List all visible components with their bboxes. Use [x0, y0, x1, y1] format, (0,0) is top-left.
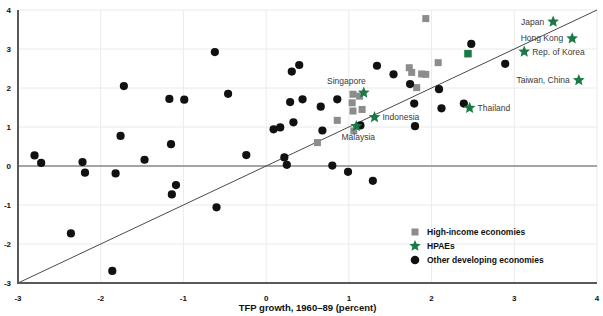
- data-point: [212, 203, 220, 211]
- data-point: [435, 85, 443, 93]
- y-tick-label: 1: [7, 123, 12, 132]
- data-point: [389, 70, 397, 78]
- point-label-japan: Japan: [521, 17, 544, 27]
- data-point: [435, 59, 442, 66]
- data-point: [317, 103, 325, 111]
- identity-reference-line: [18, 10, 597, 283]
- data-point: [467, 40, 475, 48]
- data-point: [413, 84, 420, 91]
- data-point: [333, 95, 341, 103]
- data-point: [411, 122, 419, 130]
- data-point: [67, 229, 75, 237]
- data-point: [318, 126, 326, 134]
- data-point: [373, 62, 381, 70]
- data-point: [112, 169, 120, 177]
- data-point: [344, 168, 352, 176]
- data-point: [288, 68, 296, 76]
- point-label-rep-of-korea: Rep. of Korea: [532, 47, 585, 57]
- y-tick-label: 4: [7, 6, 12, 15]
- data-point: [406, 80, 414, 88]
- data-point-hpae-square: [464, 50, 472, 58]
- data-point: [298, 95, 306, 103]
- data-point: [242, 151, 250, 159]
- legend-marker-circle: [411, 256, 420, 265]
- data-point: [286, 98, 294, 106]
- data-point: [30, 151, 38, 159]
- point-label-hong-kong: Hong Kong: [521, 33, 564, 43]
- point-label-singapore: Singapore: [327, 76, 366, 86]
- data-point: [410, 100, 418, 108]
- x-tick-label: -1: [180, 294, 188, 303]
- data-point: [168, 190, 176, 198]
- legend-label-2: Other developing economies: [427, 255, 544, 265]
- point-label-taiwan-china: Taiwan, China: [516, 75, 570, 85]
- data-point: [359, 106, 366, 113]
- data-point: [211, 48, 219, 56]
- y-tick-label: 3: [7, 45, 12, 54]
- data-point: [408, 69, 415, 76]
- y-tick-label: -2: [4, 240, 12, 249]
- data-point: [116, 132, 124, 140]
- data-point: [280, 153, 288, 161]
- data-point: [283, 161, 291, 169]
- data-point: [276, 123, 284, 131]
- y-tick-label: -3: [4, 279, 12, 288]
- data-point-rep-of-korea: [518, 46, 530, 57]
- data-point: [349, 99, 356, 106]
- legend-label-0: High-income economies: [427, 227, 526, 237]
- data-point: [172, 181, 180, 189]
- x-tick-label: 2: [429, 294, 434, 303]
- scatter-plot: -3-2-101234-3-2-101234TFP growth, 1960–8…: [0, 0, 603, 316]
- data-point: [422, 71, 429, 78]
- legend-marker-star: [409, 240, 420, 251]
- data-point: [328, 162, 336, 170]
- x-axis-title: TFP growth, 1960–89 (percent): [239, 302, 377, 313]
- data-point: [165, 95, 173, 103]
- legend-marker-square: [412, 229, 419, 236]
- point-label-indonesia: Indonesia: [382, 112, 419, 122]
- data-point: [314, 139, 321, 146]
- data-point: [37, 159, 45, 167]
- data-point-japan: [547, 16, 559, 27]
- data-point-hong-kong: [566, 32, 578, 43]
- chart-figure: -3-2-101234-3-2-101234TFP growth, 1960–8…: [0, 0, 603, 316]
- y-tick-label: 0: [7, 162, 12, 171]
- x-tick-label: -2: [97, 294, 105, 303]
- data-point: [140, 156, 148, 164]
- data-point: [295, 61, 303, 69]
- y-tick-label: -1: [4, 201, 12, 210]
- data-point: [108, 267, 116, 275]
- data-point: [501, 60, 509, 68]
- data-point: [289, 118, 297, 126]
- data-point: [81, 169, 89, 177]
- data-point: [437, 104, 445, 112]
- data-point: [349, 91, 356, 98]
- x-tick-label: -3: [14, 294, 22, 303]
- data-point: [369, 177, 377, 185]
- data-point: [167, 140, 175, 148]
- data-point: [180, 96, 188, 104]
- legend-label-1: HPAEs: [427, 241, 455, 251]
- data-point: [422, 15, 429, 22]
- x-tick-label: 4: [595, 294, 600, 303]
- y-tick-label: 2: [7, 84, 12, 93]
- data-point: [120, 82, 128, 90]
- x-tick-label: 3: [512, 294, 517, 303]
- point-label-malaysia: Malaysia: [342, 132, 376, 142]
- data-point: [78, 158, 86, 166]
- data-point: [224, 90, 232, 98]
- data-point-taiwan-china: [573, 74, 585, 85]
- data-point: [349, 108, 356, 115]
- data-point: [334, 117, 341, 124]
- point-label-thailand: Thailand: [478, 103, 511, 113]
